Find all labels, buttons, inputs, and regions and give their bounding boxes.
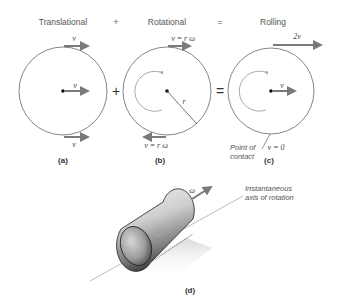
center-velocity-label-c: v: [280, 81, 284, 90]
header-plus: +: [113, 17, 118, 27]
panel-label-d: (d): [185, 286, 196, 295]
header-rolling: Rolling: [260, 17, 286, 27]
header-equals: =: [217, 17, 222, 27]
omega-label: ω: [189, 186, 195, 195]
panel-c-rolling: 2v v v = 0 Point of contact (c): [228, 32, 321, 165]
center-velocity-label-a: v: [73, 81, 77, 90]
contact-label-line1: Point of: [230, 143, 256, 152]
axis-label-line2: axis of rotation: [245, 193, 294, 202]
top-velocity-label-c: 2v: [293, 32, 301, 41]
panel-label-a: (a): [58, 156, 68, 165]
header-translational: Translational: [39, 17, 87, 27]
panel-a-translational: v v v (a): [19, 34, 107, 165]
panel-b-rotational: r v = r ω v = r ω (b): [123, 34, 211, 165]
rotation-curl-icon-b: [135, 71, 162, 111]
header-rotational: Rotational: [148, 17, 186, 27]
contact-velocity-label-c: v = 0: [268, 143, 285, 152]
rolling-motion-diagram: Translational + Rotational = Rolling v v…: [0, 0, 341, 305]
equals-operator: =: [216, 83, 224, 99]
top-velocity-label-a: v: [72, 34, 76, 43]
bottom-velocity-label-a: v: [72, 140, 76, 149]
plus-operator: +: [112, 83, 120, 99]
panel-label-b: (b): [155, 156, 166, 165]
radius-line-b: [167, 91, 197, 124]
panel-d-cylinder: ω Instantaneous axis of rotation (d): [90, 184, 294, 295]
axis-label-line1: Instantaneous: [245, 184, 292, 193]
rotation-curl-icon-c: [239, 71, 266, 111]
panel-label-c: (c): [264, 156, 274, 165]
bottom-velocity-label-b: v = r ω: [144, 141, 168, 150]
omega-vector-arrow: [192, 187, 211, 199]
contact-label-line2: contact: [230, 152, 255, 161]
radius-label-b: r: [182, 97, 186, 106]
top-velocity-label-b: v = r ω: [171, 34, 195, 43]
